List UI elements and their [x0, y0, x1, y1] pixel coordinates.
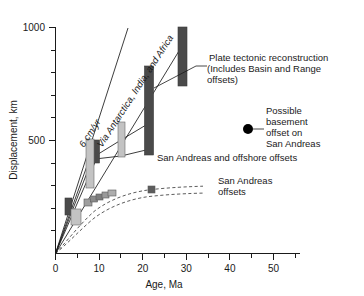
annotation-offshore-offsets: San Andreas and offshore offsets	[157, 152, 297, 163]
basement-offset-marker-icon	[243, 124, 253, 134]
xtick-label-50: 50	[268, 263, 280, 274]
bar-15ma-light	[118, 122, 125, 157]
bar-5_6ma-light	[71, 209, 81, 225]
sa-box-22ma	[148, 186, 155, 193]
figure-canvas: 1000 500 0 10 20 30 40 50 Age, Ma Displa…	[0, 0, 364, 296]
displacement-vs-age-chart: 1000 500 0 10 20 30 40 50 Age, Ma Displa…	[0, 0, 364, 296]
basement-line2: basement	[266, 116, 308, 127]
sa-box-12_6ma	[108, 190, 116, 196]
y-axis-label: Displacement, km	[8, 100, 19, 179]
sa-offsets-line1: San Andreas	[218, 175, 273, 186]
bar-29ma-dark	[178, 27, 187, 86]
basement-line3: offset on	[266, 127, 302, 138]
basement-line1: Possible	[266, 105, 302, 116]
sa-offsets-line2: offsets	[218, 186, 246, 197]
xtick-label-20: 20	[137, 263, 149, 274]
xtick-label-0: 0	[53, 263, 59, 274]
plate-tectonic-line3: offsets)	[207, 74, 238, 85]
ytick-label-500: 500	[28, 135, 45, 146]
basement-line4: San Andreas	[266, 138, 321, 149]
xtick-label-10: 10	[94, 263, 106, 274]
plate-tectonic-line1: Plate tectonic reconstruction	[209, 52, 328, 63]
plate-tectonic-line2: (Includes Basin and Range	[207, 63, 321, 74]
xtick-label-30: 30	[181, 263, 193, 274]
xtick-label-40: 40	[224, 263, 236, 274]
x-axis-label: Age, Ma	[145, 279, 183, 290]
ytick-label-1000: 1000	[23, 22, 46, 33]
